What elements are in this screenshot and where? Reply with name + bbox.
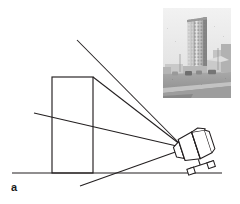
sight-line-mid-horizon — [34, 113, 181, 147]
camera-mount-post — [198, 159, 200, 165]
photograph-inset — [163, 8, 231, 98]
sight-line-lower — [80, 150, 181, 186]
tilted-camera-on-dolly — [170, 125, 220, 177]
camera-dolly-wheel-front — [187, 167, 196, 175]
figure-panel-a: a — [0, 0, 240, 204]
photograph-inset-image — [163, 8, 231, 98]
panel-label: a — [11, 181, 17, 194]
